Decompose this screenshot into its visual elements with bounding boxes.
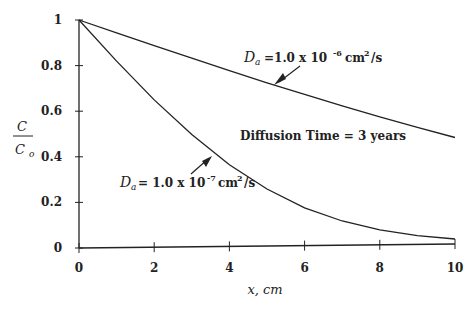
svg-text:a: a bbox=[131, 182, 136, 192]
svg-text:a: a bbox=[255, 57, 260, 67]
svg-text:D: D bbox=[243, 49, 255, 65]
x-tick-label: 10 bbox=[447, 261, 464, 275]
y-tick-label: 0.8 bbox=[41, 59, 62, 73]
series-line-0 bbox=[79, 20, 455, 138]
svg-text:/s: /s bbox=[371, 51, 382, 65]
svg-text:cm: cm bbox=[345, 51, 365, 65]
svg-text:2: 2 bbox=[237, 173, 243, 183]
x-tick-label: 4 bbox=[225, 261, 233, 275]
svg-text:2: 2 bbox=[364, 48, 370, 58]
y-tick-label: 1 bbox=[54, 13, 62, 27]
x-axis bbox=[79, 244, 455, 248]
y-axis-label: C C o bbox=[13, 119, 35, 159]
svg-text:C: C bbox=[17, 119, 27, 134]
y-tick-label: 0 bbox=[54, 241, 62, 255]
annotation-diffusion-time: Diffusion Time = 3 years bbox=[240, 129, 406, 143]
svg-text:-6: -6 bbox=[333, 48, 342, 58]
svg-text:o: o bbox=[29, 149, 35, 159]
x-tick-label: 0 bbox=[75, 261, 83, 275]
svg-text:-7: -7 bbox=[207, 173, 216, 183]
x-tick-label: 8 bbox=[376, 261, 384, 275]
svg-text:/s: /s bbox=[244, 176, 255, 190]
annotation-lower-curve: D a = 1.0 x 10 -7 cm 2 /s bbox=[119, 156, 255, 192]
y-tick-label: 0.6 bbox=[41, 104, 62, 118]
svg-text:D: D bbox=[119, 174, 131, 190]
annotation-upper-curve: D a =1.0 x 10 -6 cm 2 /s bbox=[243, 48, 382, 85]
x-tick-label: 2 bbox=[150, 261, 158, 275]
svg-text:cm: cm bbox=[218, 176, 238, 190]
y-tick-label: 0.2 bbox=[41, 195, 62, 209]
svg-text:C: C bbox=[15, 142, 25, 157]
svg-text:= 1.0 x 10: = 1.0 x 10 bbox=[138, 176, 205, 190]
chart: 00.20.40.60.810246810 C C o x, cm Diffus… bbox=[0, 0, 474, 313]
x-tick-label: 6 bbox=[300, 261, 308, 275]
x-axis-label: x, cm bbox=[247, 282, 282, 297]
svg-text:=1.0 x 10: =1.0 x 10 bbox=[264, 51, 327, 65]
y-tick-label: 0.4 bbox=[41, 150, 62, 164]
